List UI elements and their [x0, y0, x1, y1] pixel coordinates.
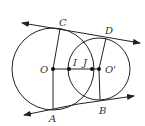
label-C: C	[59, 17, 67, 28]
label-I: I	[72, 57, 78, 68]
label-J: J	[81, 57, 88, 68]
segment-O-prime-B	[99, 69, 100, 100]
label-A: A	[48, 113, 56, 124]
label-O: O	[40, 64, 48, 75]
label-D: D	[104, 25, 113, 36]
point-J	[90, 67, 94, 71]
tangent-line-CD-left	[22, 23, 82, 33]
point-O	[51, 67, 55, 71]
label-B: B	[98, 105, 106, 116]
point-I	[67, 67, 71, 71]
geometry-diagram: C D O I J O' A B	[0, 0, 145, 126]
segment-OC	[53, 29, 60, 69]
label-O-prime: O'	[105, 64, 116, 75]
point-O-prime	[97, 67, 101, 71]
